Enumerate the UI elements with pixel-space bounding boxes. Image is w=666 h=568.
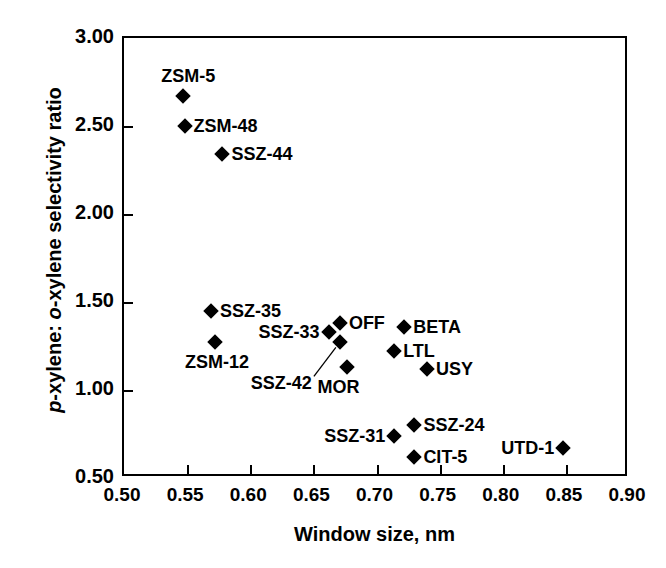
data-point-marker xyxy=(332,315,348,331)
x-tick-label: 0.55 xyxy=(150,485,220,504)
data-point-label: MOR xyxy=(317,378,359,396)
data-point-marker xyxy=(407,417,423,433)
data-point-marker xyxy=(177,118,193,134)
y-tick-label: 3.00 xyxy=(44,26,114,46)
data-point-label: BETA xyxy=(413,318,461,336)
data-point-label: USY xyxy=(436,360,473,378)
data-point-marker xyxy=(321,324,337,340)
data-point-label: SSZ-42 xyxy=(251,374,312,392)
x-axis-title: Window size, nm xyxy=(122,524,627,544)
data-point-label: ZSM-5 xyxy=(161,67,215,85)
x-tick-mark xyxy=(377,465,379,474)
y-tick-mark xyxy=(124,126,133,128)
data-point-marker xyxy=(419,361,435,377)
data-point-marker xyxy=(556,440,572,456)
data-point-label: SSZ-35 xyxy=(220,302,281,320)
data-point-marker xyxy=(203,303,219,319)
x-tick-label: 0.85 xyxy=(529,485,599,504)
y-tick-label: 2.50 xyxy=(44,114,114,134)
x-tick-mark xyxy=(250,465,252,474)
x-tick-label: 0.50 xyxy=(87,485,157,504)
data-point-label: CIT-5 xyxy=(423,448,467,466)
data-point-marker xyxy=(386,428,402,444)
data-point-label: ZSM-12 xyxy=(185,353,249,371)
y-tick-mark xyxy=(124,390,133,392)
plot-area: ZSM-5ZSM-48SSZ-44SSZ-35ZSM-12SSZ-33OFFSS… xyxy=(122,36,627,476)
scatter-chart-figure: p-xylene: o-xylene selectivity ratio Win… xyxy=(0,0,666,568)
y-tick-label: 0.50 xyxy=(44,466,114,486)
data-point-marker xyxy=(386,343,402,359)
data-point-label: SSZ-33 xyxy=(258,323,319,341)
y-tick-label: 2.00 xyxy=(44,202,114,222)
x-tick-label: 0.75 xyxy=(403,485,473,504)
y-tick-mark xyxy=(124,302,133,304)
y-tick-mark xyxy=(124,214,133,216)
y-tick-label: 1.50 xyxy=(44,290,114,310)
data-point-marker xyxy=(396,319,412,335)
data-point-marker xyxy=(176,88,192,104)
data-point-label: SSZ-44 xyxy=(231,145,292,163)
x-tick-label: 0.90 xyxy=(592,485,662,504)
x-tick-mark xyxy=(313,465,315,474)
data-point-label: SSZ-24 xyxy=(423,416,484,434)
x-tick-label: 0.80 xyxy=(466,485,536,504)
y-tick-label: 1.00 xyxy=(44,378,114,398)
x-tick-label: 0.65 xyxy=(276,485,346,504)
x-tick-mark xyxy=(566,465,568,474)
x-tick-label: 0.60 xyxy=(213,485,283,504)
data-point-label: SSZ-31 xyxy=(324,427,385,445)
x-tick-label: 0.70 xyxy=(340,485,410,504)
y-axis-title: p-xylene: o-xylene selectivity ratio xyxy=(44,0,64,500)
x-tick-mark xyxy=(187,465,189,474)
data-point-label: LTL xyxy=(403,342,435,360)
x-tick-mark xyxy=(503,465,505,474)
data-point-marker xyxy=(207,335,223,351)
data-point-marker xyxy=(332,335,348,351)
leader-line-svg xyxy=(124,38,629,478)
data-point-marker xyxy=(407,449,423,465)
data-point-label: ZSM-48 xyxy=(194,117,258,135)
data-point-marker xyxy=(340,359,356,375)
data-point-label: UTD-1 xyxy=(501,439,554,457)
y-axis-title-italic-p: p xyxy=(43,401,65,413)
data-point-marker xyxy=(215,146,231,162)
data-point-label: OFF xyxy=(349,314,385,332)
